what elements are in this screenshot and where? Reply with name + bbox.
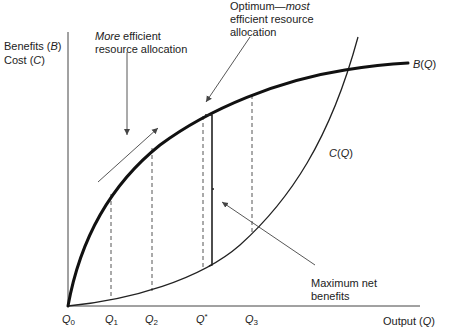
tick-q2: Q2 xyxy=(145,313,159,327)
y-axis-label-cost: Cost (C) xyxy=(4,54,45,66)
cost-curve-label: C(Q) xyxy=(329,147,353,159)
cost-benefit-diagram: Benefits (B) Cost (C) More efficient res… xyxy=(0,0,449,332)
benefit-curve-label: B(Q) xyxy=(413,58,436,70)
optimum-label-line2: efficient resource xyxy=(230,13,314,25)
max-net-benefits-label-line1: Maximum net xyxy=(311,277,377,289)
more-efficient-label-line2: resource allocation xyxy=(95,43,187,55)
optimum-label-line1: Optimum—most xyxy=(230,0,310,12)
max-net-benefits-arrow xyxy=(222,202,315,265)
optimum-label-line3: allocation xyxy=(230,26,276,38)
tick-q0: Q0 xyxy=(62,313,76,327)
tick-q1: Q1 xyxy=(105,313,119,327)
tick-q3: Q3 xyxy=(245,313,259,327)
max-net-benefit-bracket xyxy=(205,115,212,266)
optimum-arrow xyxy=(206,37,250,102)
x-axis-label: Output (Q) xyxy=(383,315,435,327)
tick-qstar: Q* xyxy=(196,312,208,325)
more-efficient-label-line1: More efficient xyxy=(95,30,161,42)
benefit-curve xyxy=(68,63,408,306)
max-net-benefits-label-line2: benefits xyxy=(311,290,350,302)
y-axis-label-benefits: Benefits (B) xyxy=(4,40,61,52)
